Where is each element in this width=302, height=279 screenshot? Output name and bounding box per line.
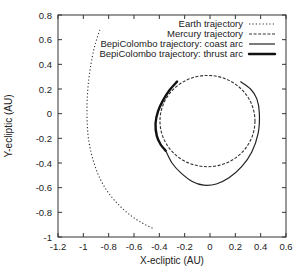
x-tick-label: 0.2 (229, 241, 242, 252)
y-tick-label: -0.2 (36, 133, 52, 144)
x-tick-label: -0.8 (100, 241, 116, 252)
x-tick-label: -0.2 (176, 241, 192, 252)
y-tick-label: -0.8 (36, 207, 52, 218)
y-tick-label: 0.6 (39, 34, 52, 45)
y-tick-label: -1 (44, 232, 52, 243)
y-tick-label: 0.2 (39, 84, 52, 95)
x-tick-label: 0 (207, 241, 212, 252)
y-axis-label: Y-ecliptic (AU) (3, 95, 14, 158)
y-tick-label: 0.4 (39, 59, 52, 70)
x-tick-label: -0.4 (151, 241, 167, 252)
x-axis-label: X-ecliptic (AU) (140, 255, 204, 266)
series-bepicolombo-trajectory-coast-arc (166, 82, 260, 186)
x-tick-label: 0.4 (254, 241, 267, 252)
x-tick-label: -1.2 (50, 241, 66, 252)
y-tick-label: -0.6 (36, 182, 52, 193)
x-tick-label: -1 (79, 241, 87, 252)
series-bepicolombo-trajectory-thrust-arc (155, 82, 177, 151)
series-layer (87, 30, 259, 229)
y-tick-label: 0.8 (39, 10, 52, 21)
series-earth-trajectory (87, 30, 153, 229)
legend: Earth trajectoryMercury trajectoryBepiCo… (99, 18, 275, 59)
x-tick-labels: -1.2-1-0.8-0.6-0.4-0.200.20.40.6 (50, 241, 293, 252)
y-tick-label: -0.4 (36, 158, 52, 169)
x-tick-label: 0.6 (279, 241, 292, 252)
y-tick-labels: -1-0.8-0.6-0.4-0.200.20.40.60.8 (36, 10, 52, 243)
series-mercury-trajectory (160, 75, 255, 166)
legend-label: BepiColombo trajectory: thrust arc (99, 48, 243, 59)
trajectory-chart: -1.2-1-0.8-0.6-0.4-0.200.20.40.6 -1-0.8-… (0, 0, 302, 279)
y-tick-label: 0 (47, 108, 52, 119)
x-tick-label: -0.6 (126, 241, 142, 252)
